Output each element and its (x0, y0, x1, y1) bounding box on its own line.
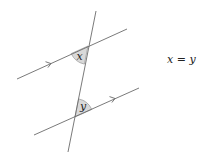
equation-left: x (167, 53, 173, 66)
equation-operator: = (177, 53, 186, 66)
angle-y-label: y (79, 100, 87, 113)
upper-parallel-line (17, 29, 127, 79)
parallel-lines-diagram: x y (0, 0, 209, 161)
transversal-line (68, 11, 96, 152)
lower-parallel-line (34, 88, 139, 135)
equation-right: y (189, 53, 195, 66)
equation: x = y (167, 53, 196, 66)
angle-x-label: x (77, 50, 84, 63)
